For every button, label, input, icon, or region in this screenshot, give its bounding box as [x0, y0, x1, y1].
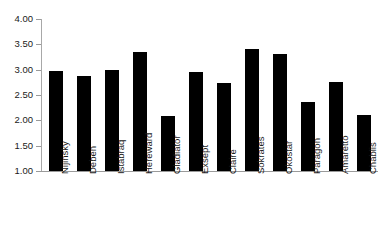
x-tick-slot: Sokrates [238, 174, 266, 242]
y-tick-mark [36, 70, 41, 71]
x-tick-label: Amaretto [340, 135, 350, 174]
x-tick-slot: Exsept [182, 174, 210, 242]
x-tick-label: Paragon [312, 138, 322, 174]
x-tick-label: Exsept [200, 145, 210, 174]
x-tick-label: Okostar [284, 141, 294, 174]
y-tick-mark [36, 19, 41, 20]
y-tick-mark [36, 120, 41, 121]
y-tick-label: 1.00 [15, 166, 34, 176]
y-tick-label: 2.50 [15, 90, 34, 100]
x-tick-slot: Deben [70, 174, 98, 242]
y-tick-mark [36, 44, 41, 45]
x-tick-label: Istabraq [116, 140, 126, 174]
x-tick-label: Deben [88, 146, 98, 174]
y-tick-mark [36, 95, 41, 96]
x-tick-slot: Nijinsky [42, 174, 70, 242]
y-axis-tick-labels: 4.003.503.002.502.001.501.00 [0, 0, 36, 242]
x-axis-category-labels: NijinskyDebenIstabraqHerewardGladiatorEx… [42, 174, 378, 242]
y-tick-label: 1.50 [15, 141, 34, 151]
x-tick-slot: Hereward [126, 174, 154, 242]
y-tick-label: 2.00 [15, 115, 34, 125]
bar-chart: 4.003.503.002.502.001.501.00 NijinskyDeb… [0, 0, 384, 242]
x-tick-slot: Okostar [266, 174, 294, 242]
bar-slot [210, 19, 238, 171]
x-tick-slot: Gladiator [154, 174, 182, 242]
y-tick-label: 3.50 [15, 39, 34, 49]
x-tick-slot: Chablis [350, 174, 378, 242]
x-tick-slot: Claire [210, 174, 238, 242]
x-tick-slot: Istabraq [98, 174, 126, 242]
x-tick-label: Sokrates [256, 137, 266, 175]
y-tick-label: 4.00 [15, 14, 34, 24]
x-tick-label: Claire [228, 149, 238, 174]
y-tick-mark [36, 171, 41, 172]
y-tick-mark [36, 146, 41, 147]
y-tick-label: 3.00 [15, 65, 34, 75]
x-tick-slot: Paragon [294, 174, 322, 242]
x-tick-label: Gladiator [172, 135, 182, 174]
x-tick-label: Hereward [144, 133, 154, 174]
x-tick-slot: Amaretto [322, 174, 350, 242]
x-tick-label: Nijinsky [60, 141, 70, 174]
x-tick-label: Chablis [368, 142, 378, 174]
